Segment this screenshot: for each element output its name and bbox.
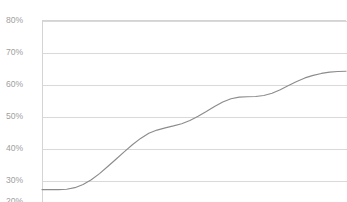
chart-screenshot: 80% 70% 60% 50% 40% 30% 20%: [0, 0, 347, 202]
data-line-series-1: [42, 71, 346, 189]
series-layer: [0, 0, 347, 202]
